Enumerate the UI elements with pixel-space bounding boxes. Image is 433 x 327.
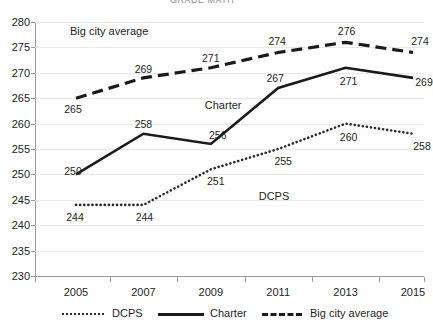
legend-item-dcps[interactable]: DCPS xyxy=(62,304,172,327)
data-label: 255 xyxy=(271,156,295,167)
data-label: 251 xyxy=(204,176,228,187)
legend-label-charter: Charter xyxy=(210,308,247,319)
data-label: 269 xyxy=(412,77,433,88)
legend-swatch-dcps xyxy=(62,313,104,315)
legend-label-big-city-average: Big city average xyxy=(310,308,388,319)
data-label: 265 xyxy=(61,104,85,115)
series-annotation-dcps: DCPS xyxy=(259,191,290,202)
data-label: 256 xyxy=(206,130,230,141)
data-label: 258 xyxy=(410,141,433,152)
data-label: 274 xyxy=(265,36,289,47)
legend-swatch-charter xyxy=(158,313,204,316)
data-label: 271 xyxy=(199,53,223,64)
legend-swatch-big-city-average xyxy=(262,313,302,316)
series-line-dcps xyxy=(76,124,413,205)
data-label: 269 xyxy=(131,64,155,75)
line-chart: GRADE MATH 28027527026526025525024524023… xyxy=(0,0,433,327)
legend-item-charter[interactable]: Charter xyxy=(158,304,278,327)
data-label: 271 xyxy=(337,76,361,87)
series-annotation-big-city-average: Big city average xyxy=(70,26,148,37)
series-annotation-charter: Charter xyxy=(205,100,242,111)
data-label: 267 xyxy=(263,73,287,84)
data-label: 276 xyxy=(335,26,359,37)
data-label: 250 xyxy=(61,166,85,177)
legend-label-dcps: DCPS xyxy=(112,308,143,319)
legend-item-big-city-average[interactable]: Big city average xyxy=(262,304,432,327)
data-label: 244 xyxy=(132,212,156,223)
data-label: 260 xyxy=(337,132,361,143)
chart-legend: DCPS Charter Big city average xyxy=(0,304,433,327)
plot-lines xyxy=(0,0,433,327)
data-label: 274 xyxy=(408,36,432,47)
data-label: 244 xyxy=(63,212,87,223)
data-label: 258 xyxy=(131,119,155,130)
